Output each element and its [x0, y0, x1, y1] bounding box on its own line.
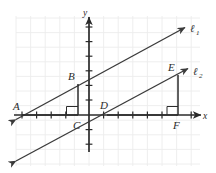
line-2-label-subscript: 2 — [199, 72, 203, 80]
point-label-D: D — [99, 99, 108, 111]
line-2-label: ℓ 2 — [193, 66, 203, 80]
figure-canvas: x y A B C D E F ℓ 1 ℓ — [0, 0, 216, 173]
point-label-F: F — [172, 119, 180, 131]
point-label-A: A — [12, 100, 20, 112]
y-axis-label: y — [82, 8, 88, 18]
x-axis-label: x — [202, 111, 208, 121]
point-label-E: E — [167, 61, 175, 73]
line-1-label-subscript: 1 — [196, 29, 200, 37]
line-1-label-text: ℓ — [190, 23, 195, 34]
background-grid — [16, 16, 200, 166]
point-label-B: B — [68, 70, 75, 82]
geometry-figure: x y A B C D E F ℓ 1 ℓ — [0, 0, 216, 173]
right-angle-at-C — [67, 107, 79, 116]
line-2-label-text: ℓ — [193, 66, 198, 77]
point-label-C: C — [73, 119, 81, 131]
